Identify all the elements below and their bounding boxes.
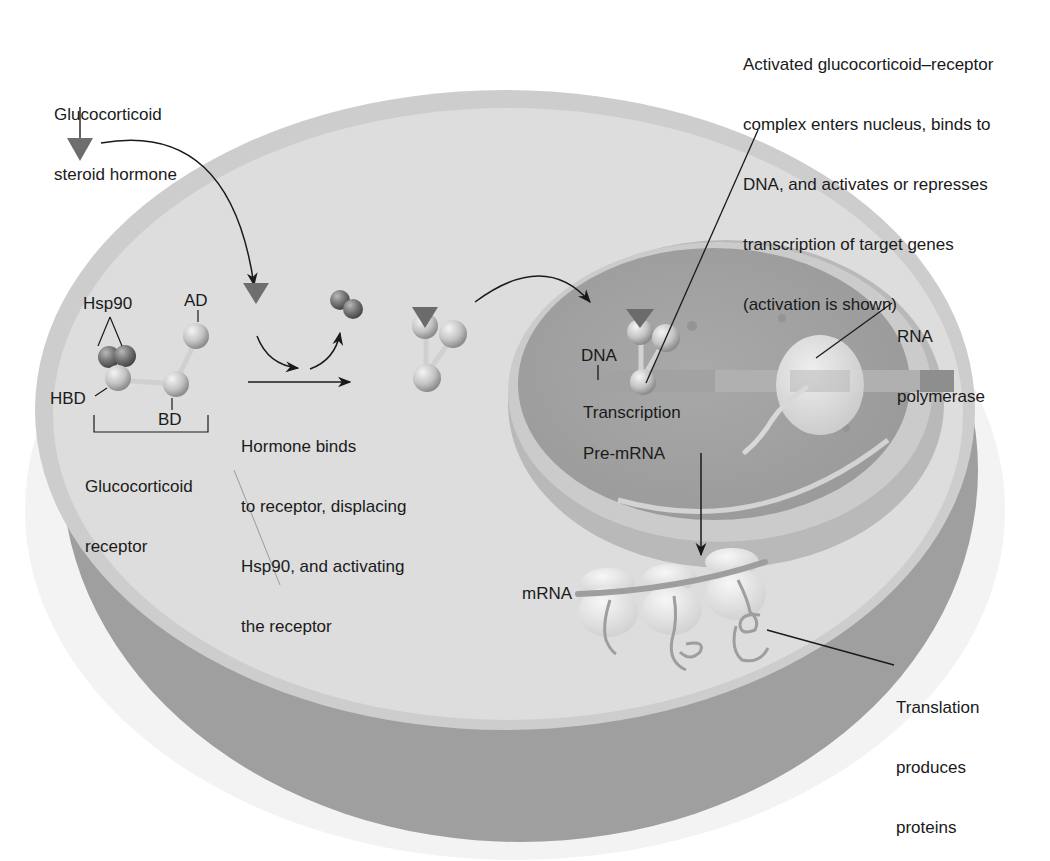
dna-label: DNA (581, 346, 617, 366)
receptor-domain-sphere (413, 364, 441, 392)
hormone-binds-label: Hormone binds to receptor, displacing Hs… (241, 397, 406, 657)
ad-sphere (183, 323, 209, 349)
hsp90-sphere (114, 345, 136, 367)
hsp90-label: Hsp90 (83, 294, 132, 314)
transcription-label: Transcription (583, 403, 681, 423)
hbd-label: HBD (50, 389, 86, 409)
hbd-sphere (105, 365, 131, 391)
mrna-label: mRNA (522, 584, 572, 604)
receptor-domain-sphere (439, 320, 467, 348)
ad-label: AD (184, 291, 208, 311)
nuclear-speckle (687, 321, 697, 331)
bd-label: BD (158, 410, 182, 430)
released-hsp90-sphere (343, 299, 363, 319)
ribosome-large-subunit (642, 585, 702, 635)
rna-polymerase-dna-overlay (790, 370, 850, 392)
translation-label: Translation produces proteins (896, 658, 979, 858)
rna-polymerase-label: RNA polymerase (897, 287, 985, 427)
receptor-label: Glucocorticoid receptor (85, 437, 193, 577)
pre-mrna-label: Pre-mRNA (583, 444, 665, 464)
bd-sphere (163, 371, 189, 397)
receptor-dna-binding-sphere (630, 369, 656, 395)
hormone-label: Glucocorticoid steroid hormone (54, 65, 177, 205)
